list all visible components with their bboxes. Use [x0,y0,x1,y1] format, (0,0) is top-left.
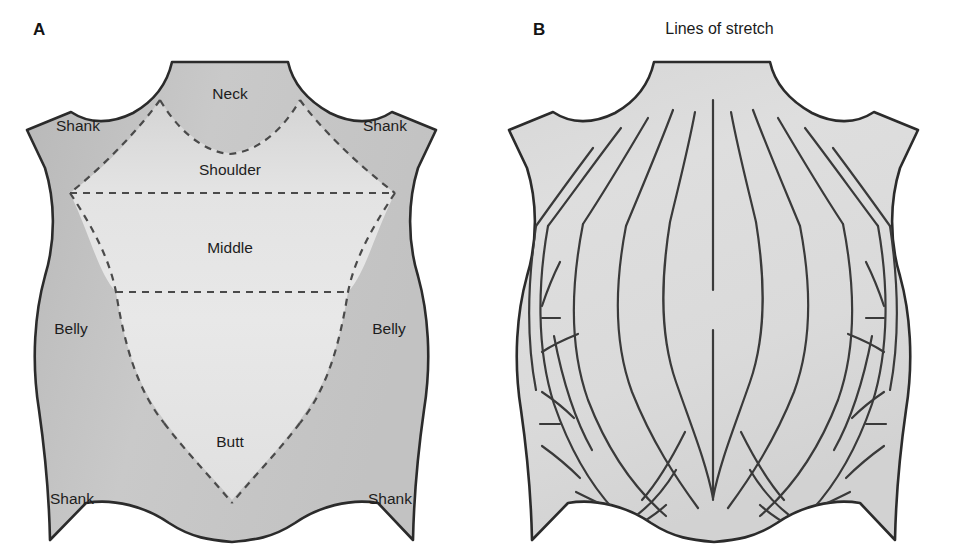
label-belly-right: Belly [372,320,406,337]
panel-b-lines-of-stretch: B Lines of stretch [480,0,959,553]
label-butt: Butt [216,433,244,450]
label-shank-top-right: Shank [363,117,407,134]
label-neck: Neck [212,85,248,102]
leather-hide-figure: A [0,0,959,553]
panel-a-diagram: Neck Shank Shank Shoulder Middle Belly B… [0,0,479,553]
label-shank-bottom-right: Shank [368,490,412,507]
label-shank-bottom-left: Shank [50,490,94,507]
label-shoulder: Shoulder [199,161,261,178]
label-shank-top-left: Shank [56,117,100,134]
panel-a-hide-regions: A [0,0,479,553]
panel-b-diagram [480,0,959,553]
label-middle: Middle [207,239,253,256]
label-belly-left: Belly [54,320,88,337]
